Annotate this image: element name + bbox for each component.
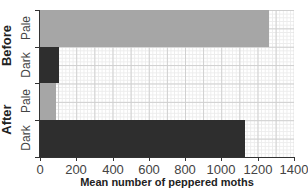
x-tick-label: 600 xyxy=(138,162,160,177)
y-tick xyxy=(35,47,39,48)
group-label-before: Before xyxy=(0,25,14,66)
x-tick xyxy=(185,157,186,161)
x-axis xyxy=(39,157,295,158)
bar-before-dark xyxy=(40,47,59,83)
group-label-after: After xyxy=(0,104,14,134)
x-tick xyxy=(40,157,41,161)
x-tick xyxy=(76,157,77,161)
category-label-before-dark: Dark xyxy=(19,52,33,77)
x-tick-label: 1400 xyxy=(280,162,308,177)
x-tick-label: 1000 xyxy=(207,162,236,177)
y-tick xyxy=(35,10,39,11)
plot-area xyxy=(40,10,294,157)
x-tick xyxy=(149,157,150,161)
bar-after-pale xyxy=(40,83,56,120)
y-tick xyxy=(35,83,39,84)
x-tick-label: 1200 xyxy=(244,162,273,177)
x-tick-label: 0 xyxy=(36,162,43,177)
x-tick xyxy=(113,157,114,161)
y-tick xyxy=(35,157,39,158)
y-axis xyxy=(39,10,40,158)
x-tick-label: 200 xyxy=(65,162,87,177)
bar-before-pale xyxy=(40,10,269,47)
category-label-after-dark: Dark xyxy=(19,125,33,150)
y-tick xyxy=(35,120,39,121)
bar-after-dark xyxy=(40,120,245,157)
x-tick xyxy=(294,157,295,161)
category-label-after-pale: Pale xyxy=(19,89,33,113)
x-tick xyxy=(221,157,222,161)
x-axis-title: Mean number of peppered moths xyxy=(40,176,294,188)
x-tick xyxy=(258,157,259,161)
x-tick-label: 400 xyxy=(102,162,124,177)
x-tick-label: 800 xyxy=(174,162,196,177)
category-label-before-pale: Pale xyxy=(19,16,33,40)
